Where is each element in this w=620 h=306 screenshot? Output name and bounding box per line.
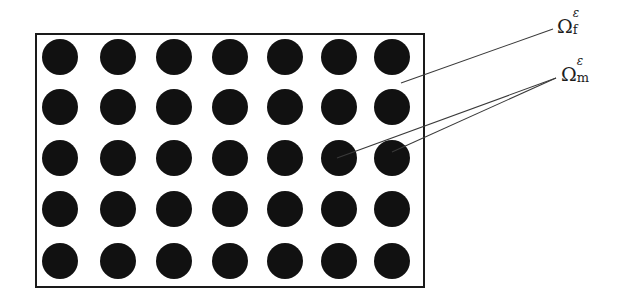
figure-canvas: Ωεf Ωεm bbox=[0, 0, 620, 306]
omega-f-scripts: εf bbox=[573, 14, 584, 33]
inclusion-circle bbox=[100, 191, 136, 227]
inclusion-circle bbox=[156, 89, 192, 125]
inclusion-circle bbox=[212, 140, 248, 176]
composite-domain-boundary bbox=[35, 33, 425, 288]
inclusion-circle bbox=[374, 39, 410, 75]
f-subscript: f bbox=[573, 23, 578, 36]
inclusion-circle bbox=[374, 140, 410, 176]
inclusion-circle bbox=[212, 191, 248, 227]
epsilon-superscript-m: ε bbox=[577, 55, 583, 67]
epsilon-superscript-f: ε bbox=[573, 7, 579, 19]
inclusion-circle bbox=[156, 140, 192, 176]
inclusion-circle bbox=[374, 89, 410, 125]
inclusion-circle bbox=[42, 191, 78, 227]
inclusion-circle bbox=[267, 140, 303, 176]
inclusion-circle bbox=[42, 140, 78, 176]
inclusion-circle bbox=[100, 243, 136, 279]
inclusion-circle bbox=[42, 39, 78, 75]
inclusion-circle bbox=[374, 243, 410, 279]
inclusion-circle bbox=[212, 89, 248, 125]
inclusion-circle bbox=[100, 39, 136, 75]
inclusion-circle bbox=[156, 243, 192, 279]
inclusion-circle bbox=[42, 243, 78, 279]
omega-symbol-m: Ω bbox=[561, 63, 577, 85]
inclusion-circle bbox=[374, 191, 410, 227]
inclusion-circle bbox=[321, 191, 357, 227]
inclusion-circle bbox=[267, 39, 303, 75]
label-omega-fiber: Ωεf bbox=[557, 14, 584, 36]
omega-m-scripts: εm bbox=[577, 62, 588, 81]
inclusion-circle bbox=[267, 243, 303, 279]
inclusion-circle bbox=[212, 243, 248, 279]
inclusion-circle bbox=[100, 89, 136, 125]
inclusion-circle bbox=[321, 89, 357, 125]
inclusion-circle bbox=[321, 140, 357, 176]
inclusion-circle bbox=[42, 89, 78, 125]
label-omega-matrix: Ωεm bbox=[561, 62, 588, 84]
inclusion-circle bbox=[267, 191, 303, 227]
inclusion-circle bbox=[267, 89, 303, 125]
inclusion-circle bbox=[321, 39, 357, 75]
inclusion-circle bbox=[156, 191, 192, 227]
inclusion-circle bbox=[100, 140, 136, 176]
inclusion-circle bbox=[321, 243, 357, 279]
omega-symbol-f: Ω bbox=[557, 15, 573, 37]
inclusion-circle bbox=[156, 39, 192, 75]
m-subscript: m bbox=[577, 71, 589, 84]
inclusion-circle bbox=[212, 39, 248, 75]
